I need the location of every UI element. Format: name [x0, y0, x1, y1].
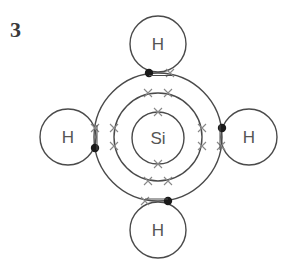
h-left-label: H — [62, 128, 74, 147]
h-bottom-electron-dot — [164, 197, 172, 205]
h-left: H — [40, 109, 96, 165]
h-bottom-label: H — [152, 221, 164, 240]
h-right-label: H — [243, 128, 255, 147]
h-right: H — [221, 109, 277, 165]
si-label: Si — [150, 129, 165, 148]
h-top: H — [130, 16, 186, 72]
silane-diagram: H H H H Si — [0, 0, 294, 264]
h-bottom: H — [130, 202, 186, 258]
h-right-electron-dot — [218, 124, 226, 132]
h-left-electron-dot — [91, 144, 99, 152]
h-top-label: H — [152, 35, 164, 54]
